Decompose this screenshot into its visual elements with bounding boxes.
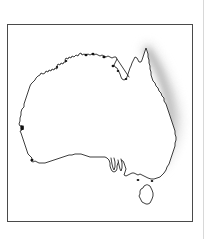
islet-dot xyxy=(117,70,120,72)
bass-strait-islet xyxy=(151,180,154,182)
bass-strait-islet xyxy=(137,179,140,181)
south-coast-marker xyxy=(31,159,34,161)
islet-dot xyxy=(125,78,128,80)
islet-dot xyxy=(65,60,68,62)
islet-dot xyxy=(112,65,115,67)
islet-dot xyxy=(92,53,95,55)
tasmania-outline xyxy=(139,185,153,204)
west-coast-marker xyxy=(20,125,23,130)
islet-dot xyxy=(102,56,105,59)
figure-page xyxy=(0,0,208,239)
gulf-st-vincent-inlet xyxy=(118,159,122,171)
australia-map xyxy=(0,0,208,239)
islet-dot xyxy=(85,54,88,56)
islet-dot xyxy=(56,66,58,68)
